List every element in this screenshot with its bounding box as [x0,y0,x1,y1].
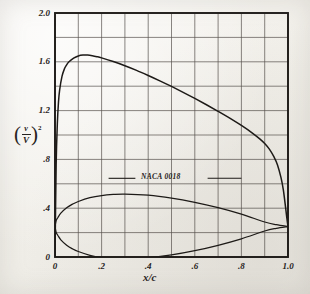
x-axis-title: x/c [143,272,156,283]
x-axis-tick-label: .6 [182,262,208,271]
grid-lines [55,13,288,257]
y-axis-tick-label: .8 [24,155,50,164]
y-axis-tick-label: 1.6 [24,57,50,66]
airfoil-name-label: NACA 0018 [141,172,181,181]
y-axis-title-exponent: 2 [38,125,42,132]
naca-0018-velocity-distribution-figure: ( v V ) 2 x/c NACA 0018 2.01.61.2.8.40 0… [0,0,310,294]
y-axis-tick-label: 2.0 [24,9,50,18]
x-axis-tick-label: 0 [42,262,68,271]
y-axis-tick-label: 0 [24,253,50,262]
plot-canvas [0,0,310,294]
y-axis-title-numerator: v [24,125,28,133]
y-axis-title: ( v V ) 2 [14,124,42,145]
y-axis-title-fraction: v V [22,125,31,145]
y-axis-title-denominator: V [23,136,29,145]
x-axis-tick-label: .2 [89,262,115,271]
x-axis-tick-label: .4 [135,262,161,271]
y-axis-title-paren-close: ) [31,124,38,145]
y-axis-title-paren-open: ( [14,124,21,145]
x-axis-tick-label: .8 [228,262,254,271]
x-axis-tick-label: 1.0 [275,262,301,271]
y-axis-tick-label: 1.2 [24,106,50,115]
y-axis-tick-label: .4 [24,204,50,213]
